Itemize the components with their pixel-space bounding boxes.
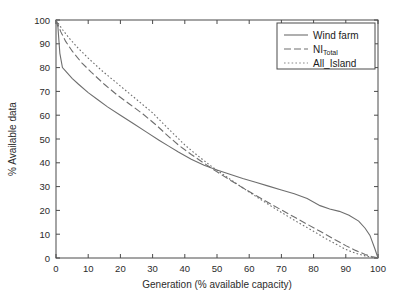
y-tick-label: 90: [39, 38, 50, 49]
y-tick-label: 70: [39, 86, 50, 97]
y-tick-label: 80: [39, 62, 50, 73]
x-tick-label: 10: [83, 263, 94, 274]
x-tick-label: 50: [212, 263, 223, 274]
line-chart: 0102030405060708090100010203040506070809…: [0, 0, 404, 303]
x-tick-label: 60: [244, 263, 255, 274]
y-tick-label: 0: [45, 253, 50, 264]
y-tick-label: 40: [39, 157, 50, 168]
x-tick-label: 40: [180, 263, 191, 274]
y-tick-label: 60: [39, 110, 50, 121]
x-axis-title: Generation (% available capacity): [142, 279, 292, 290]
y-tick-label: 50: [39, 134, 50, 145]
x-tick-label: 70: [276, 263, 287, 274]
x-tick-label: 0: [53, 263, 58, 274]
legend-label-3: All_Island: [313, 58, 356, 69]
legend-label-1: Wind farm: [313, 30, 359, 41]
x-tick-label: 30: [147, 263, 158, 274]
y-tick-label: 100: [34, 15, 50, 26]
y-tick-label: 30: [39, 181, 50, 192]
x-tick-label: 100: [370, 263, 386, 274]
chart-figure: 0102030405060708090100010203040506070809…: [0, 0, 404, 303]
y-axis-title: % Available data: [7, 102, 18, 176]
y-tick-label: 20: [39, 205, 50, 216]
chart-legend: Wind farmNITotalAll_Island: [277, 23, 375, 69]
y-tick-label: 10: [39, 229, 50, 240]
x-tick-label: 90: [341, 263, 352, 274]
x-tick-label: 20: [115, 263, 126, 274]
x-tick-label: 80: [308, 263, 319, 274]
